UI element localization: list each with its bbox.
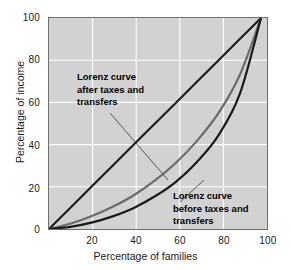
leader-line-after	[110, 113, 168, 180]
y-tick-100: 100	[10, 12, 40, 23]
y-tick-0: 0	[10, 224, 40, 235]
x-tick-60: 60	[165, 235, 195, 246]
x-tick-80: 80	[209, 235, 239, 246]
annotation-after-line-1: Lorenz curve	[77, 71, 144, 84]
plot-area: Lorenz curve after taxes and transfers L…	[48, 17, 268, 230]
lorenz-curve-figure: 100 80 60 40 20 0 20 40 60 80 100 Percen…	[0, 0, 291, 270]
annotation-before-line-3: transfers	[173, 215, 249, 228]
annotation-before-line-1: Lorenz curve	[173, 190, 249, 203]
x-tick-20: 20	[77, 235, 107, 246]
y-axis-label: Percentage of income	[14, 37, 26, 187]
x-axis-label: Percentage of families	[0, 250, 291, 262]
x-tick-100: 100	[253, 235, 283, 246]
annotation-after-line-3: transfers	[77, 96, 144, 109]
x-tick-40: 40	[121, 235, 151, 246]
annotation-before-line-2: before taxes and	[173, 203, 249, 216]
annotation-after-line-2: after taxes and	[77, 84, 144, 97]
annotation-after-taxes: Lorenz curve after taxes and transfers	[77, 71, 144, 109]
annotation-before-taxes: Lorenz curve before taxes and transfers	[173, 190, 249, 228]
